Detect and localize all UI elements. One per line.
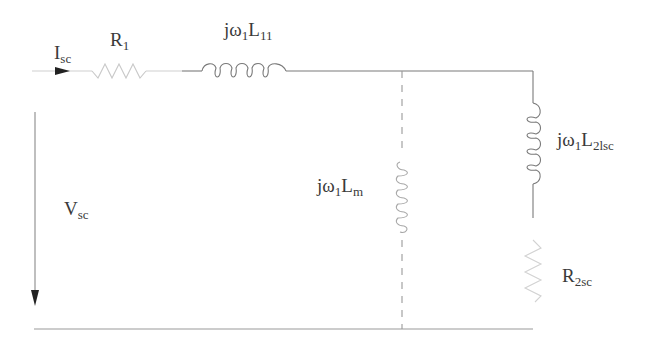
inductor-l11	[202, 64, 286, 78]
resistor-r2sc	[525, 240, 541, 302]
label-l11: jω1L11	[224, 20, 272, 42]
label-isc: Isc	[54, 43, 71, 65]
label-lm: jω1Lm	[317, 176, 363, 198]
current-arrow-icon	[55, 67, 70, 75]
label-l2lsc: jω1L2lsc	[557, 130, 614, 152]
label-vsc: Vsc	[64, 199, 89, 221]
inductor-lm	[396, 162, 407, 232]
voltage-arrow-icon	[31, 290, 39, 306]
label-r2sc: R2sc	[562, 266, 592, 288]
inductor-l2lsc	[527, 103, 541, 184]
resistor-r1	[92, 64, 146, 78]
label-r1: R1	[110, 30, 129, 52]
